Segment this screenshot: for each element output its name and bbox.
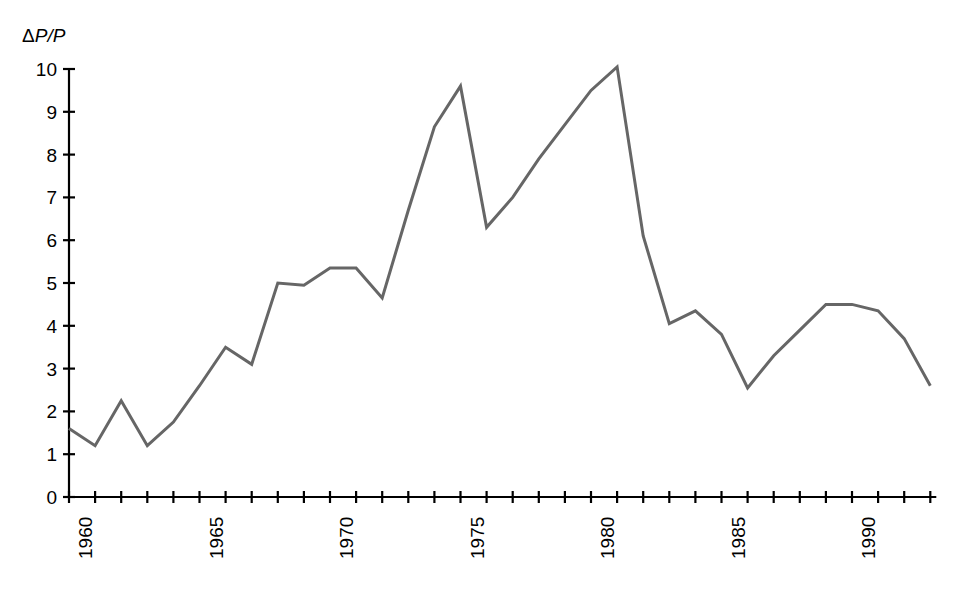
y-tick-label: 1 [27, 445, 57, 464]
y-tick-label: 8 [27, 146, 57, 165]
plot-area [0, 0, 972, 594]
y-tick-label: 3 [27, 360, 57, 379]
data-line [69, 67, 930, 446]
y-tick-label: 6 [27, 231, 57, 250]
x-tick-label: 1960 [76, 517, 95, 559]
x-tick-label: 1985 [729, 517, 748, 559]
y-tick-label: 9 [27, 103, 57, 122]
y-tick-label: 4 [27, 317, 57, 336]
y-tick-label: 7 [27, 188, 57, 207]
y-tick-label: 10 [27, 60, 57, 79]
y-tick-label: 5 [27, 274, 57, 293]
x-tick-label: 1980 [598, 517, 617, 559]
y-tick-label: 2 [27, 402, 57, 421]
x-tick-label: 1970 [337, 517, 356, 559]
x-tick-label: 1975 [468, 517, 487, 559]
x-tick-label: 1965 [207, 517, 226, 559]
y-tick-label: 0 [27, 488, 57, 507]
chart-figure: ΔP/P 012345678910 1960196519701975198019… [0, 0, 972, 594]
x-tick-label: 1990 [859, 517, 878, 559]
